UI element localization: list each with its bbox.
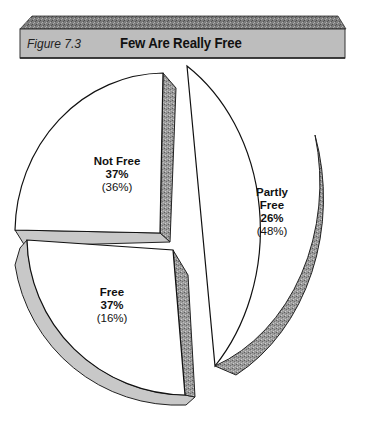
slice-percent: 37% xyxy=(62,168,172,181)
figure-title: Few Are Really Free xyxy=(120,34,242,51)
label-free: Free 37% (16%) xyxy=(72,286,152,325)
label-partly-free: Partly Free 26% (48%) xyxy=(232,186,312,238)
banner-top-bevel xyxy=(20,16,346,29)
slice-percent: 37% xyxy=(72,299,152,312)
slice-percent: 26% xyxy=(232,212,312,225)
slice-name: Not Free xyxy=(62,155,172,168)
slice-previous-percent: (36%) xyxy=(62,181,172,194)
slice-previous-percent: (16%) xyxy=(72,312,152,325)
figure-label: Figure 7.3 xyxy=(27,37,81,51)
slice-previous-percent: (48%) xyxy=(232,225,312,238)
slice-name: Free xyxy=(72,286,152,299)
slice-name: Partly Free xyxy=(252,186,292,212)
label-not-free: Not Free 37% (36%) xyxy=(62,155,172,194)
